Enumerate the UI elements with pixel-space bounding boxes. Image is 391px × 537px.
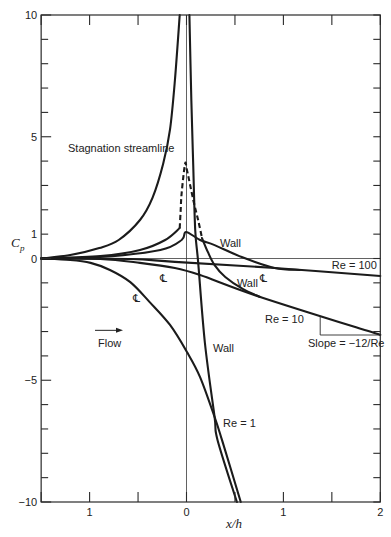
centerline-symbol: ℄ [159, 272, 167, 285]
x-tick-label: 2 [377, 506, 383, 518]
y-tick-label: 0 [31, 253, 37, 265]
x-tick-label: 1 [280, 506, 286, 518]
flow-label: Flow [98, 337, 121, 349]
x-tick-label: 1 [87, 506, 93, 518]
re10-label: Re = 10 [265, 313, 304, 325]
curve-segment-solid [41, 258, 380, 334]
curve-segment-solid [41, 259, 241, 503]
x-tick-label: 0 [183, 506, 189, 518]
y-tick-label: −5 [25, 374, 38, 386]
series-re-10-centerline [41, 258, 380, 334]
curve-segment-solid [41, 259, 380, 277]
y-tick-label: 1 [31, 228, 37, 240]
y-tick-label: 5 [31, 131, 37, 143]
slope-label: Slope = −12/Re [308, 337, 384, 349]
series-re-100-centerline [41, 259, 380, 277]
series-stagnation-streamline-re-1 [41, 15, 180, 259]
y-axis-label: C [11, 235, 20, 250]
pressure-coefficient-chart: 10510−5−101012 Stagnation streamlineWall… [0, 0, 391, 537]
y-axis-label-subscript: p [19, 243, 25, 253]
series-re-10-wall [41, 163, 260, 297]
wall-label-re100: Wall [220, 237, 241, 249]
wall-label-re10: Wall [237, 277, 258, 289]
centerline-symbol: ℄ [259, 272, 267, 285]
flow-arrow-head-icon [116, 328, 123, 333]
wall-label-re1: Wall [213, 342, 234, 354]
y-tick-label: 10 [25, 9, 37, 21]
curve-segment-solid [41, 15, 180, 259]
series-re-1-centerline [41, 259, 241, 503]
x-axis-label: x/h [225, 516, 242, 531]
centerline-symbol: ℄ [132, 292, 140, 305]
curve-segment-dashed [180, 163, 202, 239]
re100-label: Re = 100 [332, 259, 377, 271]
slope-triangle-and-arrow [95, 316, 380, 335]
stagnation-streamline-label: Stagnation streamline [68, 142, 174, 154]
y-tick-label: −10 [18, 496, 37, 508]
re1-label: Re = 1 [223, 417, 256, 429]
